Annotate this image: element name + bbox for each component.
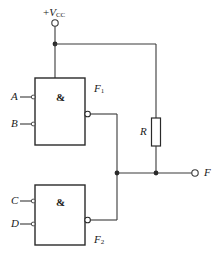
input-label-c: C <box>11 195 18 206</box>
gate-2-and-symbol: & <box>56 197 65 208</box>
gate-2-label: F2 <box>94 234 104 246</box>
gate-1-input-a-inversion-bubble-icon <box>31 95 35 99</box>
gate-2-body <box>35 185 85 245</box>
output-terminal-icon <box>192 170 198 176</box>
pullup-junction-dot <box>154 171 159 176</box>
gate-1-and-symbol: & <box>56 92 65 103</box>
gate-1-body <box>35 78 85 145</box>
vcc-terminal-icon <box>52 20 58 26</box>
gate-1-input-b-inversion-bubble-icon <box>31 122 35 126</box>
input-label-a: A <box>11 91 18 102</box>
circuit-diagram: +VCC A B C D & & F1 F2 R F <box>0 0 219 266</box>
output-label-f: F <box>204 167 211 178</box>
gate-2-output-inversion-bubble-icon <box>85 217 91 223</box>
gate-1-output-inversion-bubble-icon <box>85 111 91 117</box>
input-label-d: D <box>11 218 19 229</box>
gate-2-input-d-inversion-bubble-icon <box>31 222 35 226</box>
resistor-label: R <box>140 126 147 137</box>
gate-1-label: F1 <box>94 83 104 95</box>
wired-and-junction-dot <box>115 171 120 176</box>
circuit-schematic-svg <box>0 0 219 266</box>
gate-2-input-c-inversion-bubble-icon <box>31 199 35 203</box>
vcc-label: +VCC <box>43 7 65 19</box>
input-label-b: B <box>11 118 18 129</box>
resistor-body <box>152 118 161 146</box>
